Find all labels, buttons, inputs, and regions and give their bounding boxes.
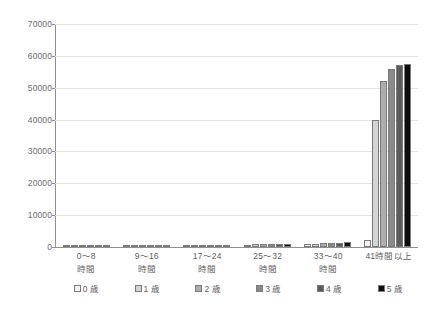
bar [215,245,222,247]
bar [95,245,102,247]
bar [199,245,206,247]
bar [388,69,395,247]
y-axis-tick-mark [52,183,55,184]
bar [123,245,130,247]
bar-group [237,24,297,247]
bar [364,240,371,247]
bar [396,65,403,247]
x-axis-tick-label: 17〜24 時間 [177,250,238,278]
y-axis-tick-labels: 010000200003000040000500006000070000 [8,24,52,247]
x-axis-tick-label: 25〜32 時間 [238,250,299,278]
y-axis-tick-mark [52,56,55,57]
bar [276,244,283,247]
bar [183,245,190,247]
bar [139,245,146,247]
bar [207,245,214,247]
legend-swatch-icon [195,285,202,292]
y-axis-tick-label: 40000 [28,115,52,124]
bar [320,243,327,247]
bar [336,243,343,247]
legend-item[interactable]: 3 歳 [238,282,299,294]
bar [252,244,259,247]
y-axis-tick-mark [52,151,55,152]
legend-swatch-icon [256,285,263,292]
legend-swatch-icon [317,285,324,292]
x-axis-tick-label: 0〜8 時間 [56,250,117,278]
bar [155,245,162,247]
legend-item[interactable]: 2 歳 [178,282,239,294]
bar-group [297,24,357,247]
bar [87,245,94,247]
legend-label: 3 歳 [265,282,281,294]
legend-label: 1 歳 [144,282,160,294]
legend-swatch-icon [135,285,142,292]
bar [244,245,251,247]
plot-wrapper: 010000200003000040000500006000070000 0〜8… [0,0,431,258]
bar-group [177,24,237,247]
legend-label: 2 歳 [204,282,220,294]
bar [328,243,335,247]
x-axis-tick-label: 9〜16 時間 [117,250,178,278]
bar [103,245,110,247]
bar-groups [56,24,418,247]
bar [63,245,70,247]
legend-swatch-icon [378,285,385,292]
y-axis-tick-mark [52,247,55,248]
bar [191,245,198,247]
x-axis-tick-label: 33〜40 時間 [298,250,359,278]
legend-label: 5 歳 [387,282,403,294]
bar [404,64,411,247]
legend-item[interactable]: 0 歳 [56,282,117,294]
bar [344,242,351,247]
legend-item[interactable]: 4 歳 [299,282,360,294]
bar-group [116,24,176,247]
y-axis-tick-mark [52,120,55,121]
bar [312,244,319,248]
y-axis-tick-mark [52,215,55,216]
legend-swatch-icon [74,285,81,292]
y-axis-tick-mark [52,88,55,89]
legend-label: 4 歳 [326,282,342,294]
bar [71,245,78,247]
bar [304,244,311,247]
bar [284,244,291,247]
bar [223,245,230,247]
y-axis-tick-label: 60000 [28,52,52,61]
bar-chart: 010000200003000040000500006000070000 0〜8… [0,0,431,314]
y-axis-tick-label: 50000 [28,83,52,92]
y-axis-tick-mark [52,24,55,25]
y-axis-tick-label: 10000 [28,211,52,220]
bar [163,245,170,247]
chart-caption [0,303,431,314]
x-axis-category-labels: 0〜8 時間9〜16 時間17〜24 時間25〜32 時間33〜40 時間41時… [56,250,419,278]
y-axis-tick-label: 30000 [28,147,52,156]
x-axis-tick-label: 41時間以上 [359,250,420,278]
bar [260,244,267,247]
bar [79,245,86,247]
bar [147,245,154,247]
bar [268,244,275,247]
bar [380,81,387,247]
legend-label: 0 歳 [83,282,99,294]
legend-item[interactable]: 1 歳 [117,282,178,294]
y-axis-tick-label: 70000 [28,20,52,29]
plot-area [55,24,418,247]
chart-legend: 0 歳1 歳2 歳3 歳4 歳5 歳 [56,281,421,295]
bar-group [358,24,418,247]
bar-group [56,24,116,247]
axis-baseline [55,247,418,248]
y-axis-tick-label: 20000 [28,179,52,188]
legend-item[interactable]: 5 歳 [360,282,421,294]
bar [372,120,379,247]
bar [131,245,138,247]
